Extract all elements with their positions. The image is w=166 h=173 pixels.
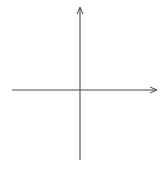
- coordinate-plane: [0, 0, 166, 173]
- x-axis: [12, 87, 157, 93]
- y-axis: [77, 7, 83, 160]
